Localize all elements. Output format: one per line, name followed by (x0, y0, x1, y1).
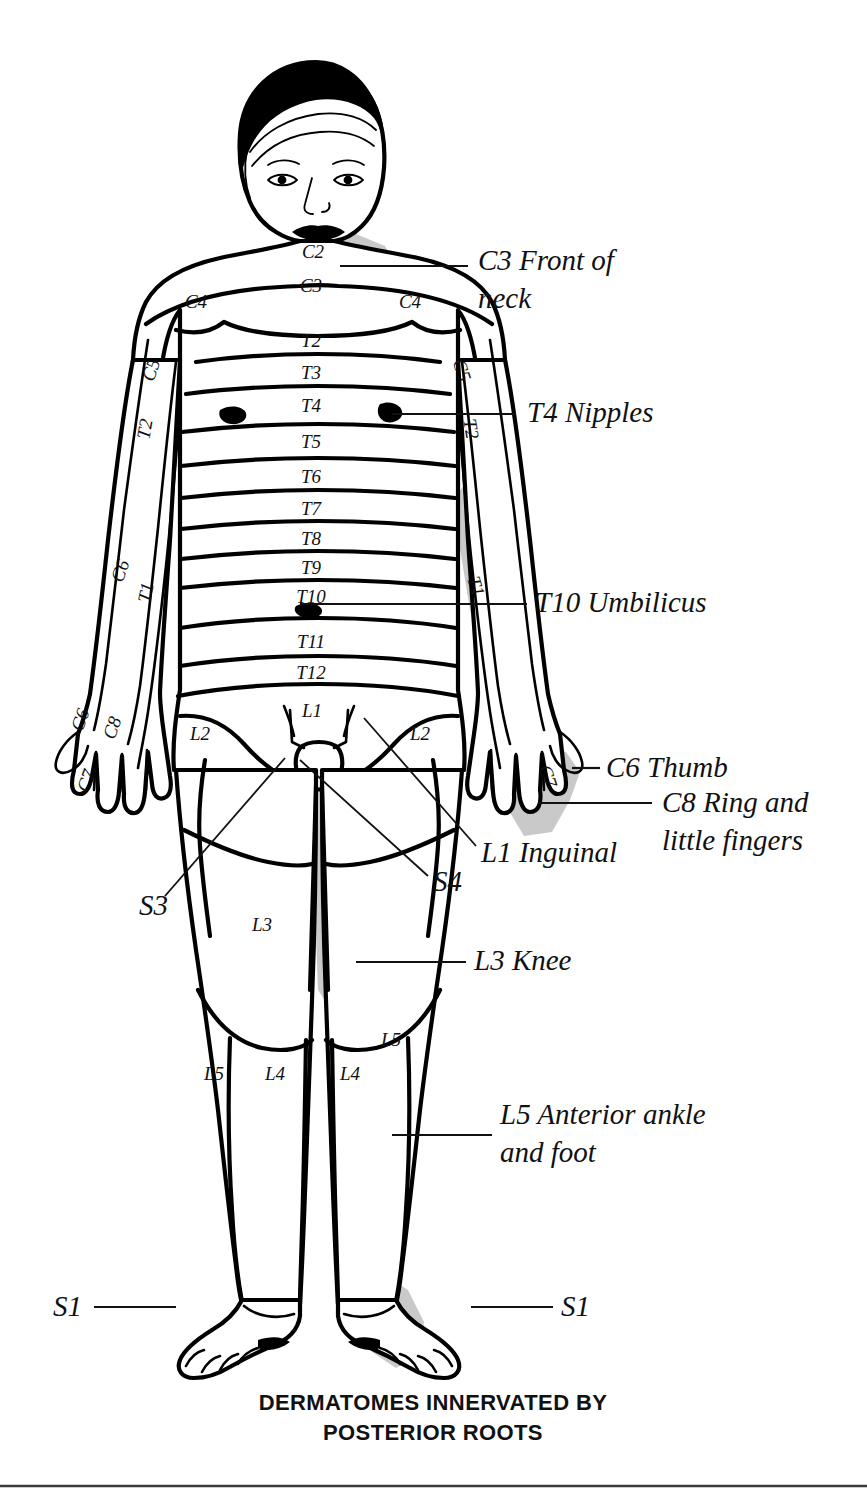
dermatome-label-t6-chest: T6 (301, 466, 322, 487)
dermatome-label-l4-left-shin: L4 (264, 1063, 286, 1084)
right-hand-finger-3 (491, 750, 492, 790)
dermatome-label-t8-abdomen: T8 (301, 528, 322, 549)
callout-text-s1-left-line-1: S1 (53, 1290, 82, 1322)
callout-text-l5-anterior-ankle-and-foot-line-1: L5 Anterior ankle (499, 1098, 706, 1130)
dermatome-label-t4-chest: T4 (301, 395, 322, 416)
callout-s1-right: S1 (471, 1290, 590, 1322)
callout-text-c8-ring-and-little-fingers-line-2: little fingers (662, 824, 803, 856)
dermatome-label-l3-left-thigh: L3 (251, 914, 272, 935)
left-hand-finger-3 (146, 750, 147, 790)
callout-text-c6-thumb-line-1: C6 Thumb (606, 751, 728, 783)
pupil-right-icon (344, 176, 353, 185)
callout-text-c3-front-of-neck-line-1: C3 Front of (478, 244, 618, 276)
figure-page: C2C3C4C4C5C5T2T3T4T5T6T7T8T9T10T11T12T2T… (0, 0, 867, 1502)
dermatome-label-t3-chest: T3 (301, 362, 321, 383)
callout-text-l3-knee-line-1: L3 Knee (473, 944, 572, 976)
callout-c6-thumb: C6 Thumb (572, 751, 728, 783)
dermatome-label-t2-chest: T2 (301, 330, 322, 351)
callout-text-t10-umbilicus-line-1: T10 Umbilicus (535, 586, 707, 618)
dermatome-label-t2-left-axilla: T2 (133, 417, 157, 441)
dermatome-label-l5-right-shin-up: L5 (380, 1029, 401, 1050)
dermatome-label-c4-left-shoulder: C4 (185, 291, 208, 312)
callout-l5-anterior-ankle-and-foot: L5 Anterior ankleand foot (392, 1098, 706, 1168)
callout-text-l1-inguinal-line-1: L1 Inguinal (480, 836, 617, 868)
dermatome-label-l2-left-thigh: L2 (189, 723, 211, 744)
callout-text-t4-nipples-line-1: T4 Nipples (527, 396, 654, 428)
dermatome-label-l2-right-thigh: L2 (409, 723, 431, 744)
dermatome-label-l5-left-shin: L5 (203, 1063, 224, 1084)
dermatome-label-t1-left-forearm: T1 (133, 581, 158, 605)
dermatome-label-l4-right-shin: L4 (339, 1063, 361, 1084)
pupil-left-icon (278, 176, 287, 185)
dermatome-label-t7-abdomen: T7 (301, 498, 323, 519)
dermatome-label-l1-groin: L1 (301, 700, 322, 721)
caption-line-2: POSTERIOR ROOTS (323, 1420, 543, 1445)
left-leg-outline (176, 770, 316, 1304)
dermatome-label-t2-right-axilla: T2 (459, 417, 483, 441)
callout-text-s4-line-1: S4 (433, 865, 462, 897)
dermatome-label-c2-neck: C2 (302, 241, 325, 262)
dermatome-label-t12-abdomen: T12 (296, 662, 326, 683)
callout-text-s3-line-1: S3 (139, 889, 168, 921)
dermatome-label-c3-neck: C3 (300, 275, 322, 296)
dermatome-label-c4-right-shoulder: C4 (399, 291, 422, 312)
dermatome-diagram: C2C3C4C4C5C5T2T3T4T5T6T7T8T9T10T11T12T2T… (0, 0, 867, 1502)
dermatome-label-t9-abdomen: T9 (301, 557, 322, 578)
callout-text-c8-ring-and-little-fingers-line-1: C8 Ring and (662, 786, 809, 818)
callout-text-l5-anterior-ankle-and-foot-line-2: and foot (500, 1136, 597, 1168)
dermatome-label-t11-abdomen: T11 (297, 631, 325, 652)
caption-line-1: DERMATOMES INNERVATED BY (259, 1390, 608, 1415)
callout-text-c3-front-of-neck-line-2: neck (478, 282, 532, 314)
callout-text-s1-right-line-1: S1 (561, 1290, 590, 1322)
dermatome-label-t5-chest: T5 (301, 431, 321, 452)
callout-s1-left: S1 (53, 1290, 176, 1322)
